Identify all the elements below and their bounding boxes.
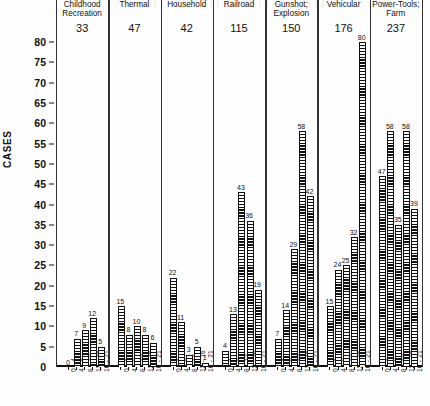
x-tick-mark bbox=[346, 367, 347, 370]
x-tick-mark bbox=[205, 367, 206, 370]
y-tick-label: 25 bbox=[24, 259, 46, 271]
y-tick-mark bbox=[49, 184, 54, 185]
x-tick-mark bbox=[390, 367, 391, 370]
y-tick-mark bbox=[49, 204, 54, 205]
y-tick-mark bbox=[49, 224, 54, 225]
y-tick-label: 0 bbox=[24, 361, 46, 373]
y-tick-label: 30 bbox=[24, 239, 46, 251]
y-tick-mark bbox=[49, 326, 54, 327]
panel-total: 237 bbox=[370, 22, 422, 34]
bar bbox=[299, 131, 306, 367]
x-tick-mark bbox=[309, 367, 310, 370]
bar bbox=[379, 176, 386, 367]
panel-title: Gunshot; Explosion bbox=[265, 0, 317, 19]
panel-total: 150 bbox=[265, 22, 317, 34]
bar-value-label: 22 bbox=[162, 269, 184, 276]
y-tick-mark bbox=[49, 102, 54, 103]
x-tick-mark bbox=[136, 367, 137, 370]
y-tick-mark bbox=[49, 143, 54, 144]
y-tick-label: 75 bbox=[24, 56, 46, 68]
y-tick-label: 40 bbox=[24, 199, 46, 211]
x-tick-mark bbox=[257, 367, 258, 370]
y-tick-label: 50 bbox=[24, 158, 46, 170]
bar-value-label: 5 bbox=[186, 338, 208, 345]
panel-total: 115 bbox=[213, 22, 265, 34]
x-tick-mark bbox=[128, 367, 129, 370]
x-tick-mark bbox=[382, 367, 383, 370]
y-tick-mark bbox=[49, 163, 54, 164]
chart-panel: Thermal47150 - 484 - 8108 - 12812 - 1661… bbox=[108, 34, 160, 367]
bar bbox=[411, 209, 418, 367]
x-tick-mark bbox=[197, 367, 198, 370]
y-tick-mark bbox=[49, 62, 54, 63]
chart-panel: Household42220 - 4114 - 838 - 12512 - 16… bbox=[161, 34, 213, 367]
y-tick-label: 80 bbox=[24, 36, 46, 48]
x-tick-mark bbox=[84, 367, 85, 370]
chart-panel: Railroad11540 - 4134 - 8438 - 123612 - 1… bbox=[213, 34, 265, 367]
y-tick-label: 10 bbox=[24, 320, 46, 332]
bar-value-label: 10 bbox=[125, 318, 147, 325]
x-tick-mark bbox=[406, 367, 407, 370]
x-tick-mark bbox=[277, 367, 278, 370]
x-tick-mark bbox=[354, 367, 355, 370]
bar-value-label: 8 bbox=[133, 326, 155, 333]
x-tick-mark bbox=[181, 367, 182, 370]
bar-value-label: 12 bbox=[81, 310, 103, 317]
chart-panel: Vehicular176150 - 4244 - 8258 - 123212 -… bbox=[317, 34, 369, 367]
bar bbox=[247, 221, 254, 367]
x-tick-mark bbox=[76, 367, 77, 370]
panel-title: Power-Tools; Farm bbox=[370, 0, 422, 19]
y-axis-label: CASES bbox=[2, 131, 13, 168]
x-tick-mark bbox=[153, 367, 154, 370]
bar-value-label: 58 bbox=[395, 123, 417, 130]
bar-value-label: 15 bbox=[109, 298, 131, 305]
y-tick-mark bbox=[49, 245, 54, 246]
x-tick-mark bbox=[189, 367, 190, 370]
bar-value-label: 11 bbox=[170, 314, 192, 321]
panel-title: Thermal bbox=[108, 0, 160, 9]
panel-total: 176 bbox=[317, 22, 369, 34]
chart-panel: Power-Tools; Farm237470 - 4584 - 8358 - … bbox=[370, 34, 422, 367]
panel-title: Vehicular bbox=[317, 0, 369, 9]
y-tick-mark bbox=[49, 82, 54, 83]
y-tick-mark bbox=[49, 265, 54, 266]
x-tick-mark bbox=[338, 367, 339, 370]
bar-value-label: 43 bbox=[230, 184, 252, 191]
panel-title: Household bbox=[161, 0, 213, 9]
y-tick-label: 60 bbox=[24, 117, 46, 129]
x-tick-mark bbox=[301, 367, 302, 370]
x-tick-mark bbox=[414, 367, 415, 370]
y-tick-mark bbox=[49, 306, 54, 307]
y-tick-label: 70 bbox=[24, 77, 46, 89]
bar bbox=[351, 237, 358, 367]
bar-value-label: 58 bbox=[290, 123, 312, 130]
y-tick-label: 55 bbox=[24, 138, 46, 150]
bar bbox=[395, 225, 402, 367]
bar bbox=[307, 196, 314, 367]
panel-total: 33 bbox=[56, 22, 108, 34]
y-tick-mark bbox=[49, 42, 54, 43]
x-tick-mark bbox=[329, 367, 330, 370]
bar bbox=[343, 265, 350, 367]
x-tick-mark bbox=[120, 367, 121, 370]
x-tick-mark bbox=[293, 367, 294, 370]
y-axis-ticks: 05101520253035404550556065707580 bbox=[18, 34, 54, 367]
y-tick-mark bbox=[49, 346, 54, 347]
x-tick-mark bbox=[173, 367, 174, 370]
plot-area: Childhood Recreation3300 - 474 - 898 - 1… bbox=[56, 34, 422, 367]
bar bbox=[335, 270, 342, 368]
x-tick-mark bbox=[68, 367, 69, 370]
x-tick-mark bbox=[398, 367, 399, 370]
bar bbox=[291, 249, 298, 367]
y-tick-label: 15 bbox=[24, 300, 46, 312]
chart-figure: CASES 05101520253035404550556065707580 C… bbox=[0, 0, 430, 406]
x-tick-mark bbox=[249, 367, 250, 370]
panel-total: 47 bbox=[108, 22, 160, 34]
y-tick-label: 65 bbox=[24, 97, 46, 109]
panel-title: Railroad bbox=[213, 0, 265, 9]
y-tick-label: 20 bbox=[24, 280, 46, 292]
chart-panel: Childhood Recreation3300 - 474 - 898 - 1… bbox=[56, 34, 108, 367]
bar bbox=[359, 42, 366, 367]
x-tick-mark bbox=[92, 367, 93, 370]
panel-title: Childhood Recreation bbox=[56, 0, 108, 19]
